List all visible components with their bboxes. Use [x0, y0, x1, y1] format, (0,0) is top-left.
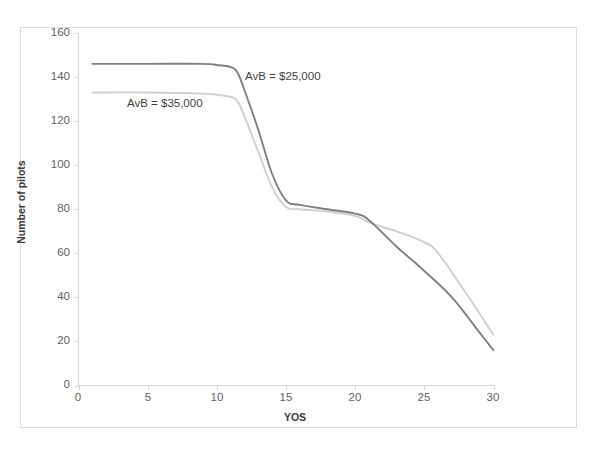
y-tick-label-60: 60 — [30, 246, 70, 258]
y-tick-label-20: 20 — [30, 334, 70, 346]
series-annotation-avb-35000: AvB = $35,000 — [127, 97, 203, 109]
x-tick-label-10: 10 — [197, 391, 237, 403]
y-tick-label-140: 140 — [30, 70, 70, 82]
x-tick-label-25: 25 — [404, 391, 444, 403]
y-tick-label-0: 0 — [30, 378, 70, 390]
x-tick-label-30: 30 — [473, 391, 513, 403]
y-tick-label-120: 120 — [30, 114, 70, 126]
y-tick-label-100: 100 — [30, 158, 70, 170]
series-annotation-avb-25000: AvB = $25,000 — [245, 70, 321, 82]
x-tick-label-20: 20 — [335, 391, 375, 403]
x-axis-title: YOS — [265, 411, 325, 423]
x-tick-label-5: 5 — [128, 391, 168, 403]
y-tick-label-80: 80 — [30, 202, 70, 214]
x-tick-label-0: 0 — [58, 391, 98, 403]
chart-plot-frame — [20, 27, 577, 428]
chart-title: AvB = $15,000 — [0, 0, 598, 1]
x-tick-label-15: 15 — [266, 391, 306, 403]
y-axis-title: Number of pilots — [15, 147, 27, 257]
y-tick-label-160: 160 — [30, 26, 70, 38]
y-tick-label-40: 40 — [30, 290, 70, 302]
